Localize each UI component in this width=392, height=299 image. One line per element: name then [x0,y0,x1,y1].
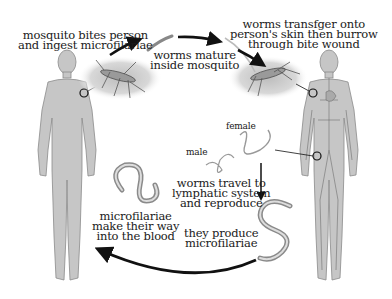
step-lymph-line-3: and reproduce [172,198,271,208]
step-mature-label: worms mature inside mosquito [150,50,239,70]
step-lymph-label: worms travel to lymphatic system and rep… [172,178,271,208]
step-blood-label: microfilariae make their way into the bl… [92,211,179,241]
step-bite-line-2: and ingest microfilariae [18,40,153,50]
male-label: male [186,148,207,157]
female-label: female [226,122,256,131]
female-worm-icon [240,130,270,154]
step-transfer-label: worms transfger onto person's skin then … [230,19,378,49]
step-transfer-line-3: through bite wound [230,39,378,49]
step-produce-label: they produce microfilariae [184,228,258,248]
arrow-return-to-human [100,250,256,273]
arrow-mature-to-transfer [178,37,218,41]
step-blood-line-3: into the blood [92,231,179,241]
step-bite-label: mosquito bites person and ingest microfi… [18,30,153,50]
male-worm-icon [206,154,234,172]
microfilaria-icon-left [116,165,157,201]
step-mature-line-2: inside mosquito [150,60,239,70]
step-produce-line-2: microfilariae [184,238,258,248]
